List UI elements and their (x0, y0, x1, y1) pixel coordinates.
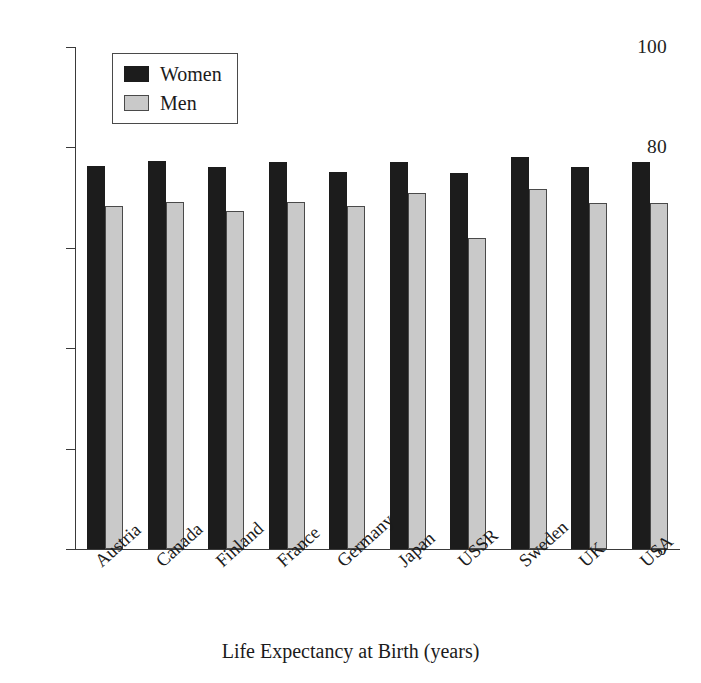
y-tick-80 (66, 147, 75, 148)
legend-label-men: Men (160, 93, 197, 113)
bar-men-finland (226, 211, 244, 549)
chart-legend: Women Men (112, 53, 238, 124)
bar-group-germany (329, 47, 365, 549)
bar-men-sweden (529, 189, 547, 549)
bar-women-japan (390, 162, 408, 549)
y-tick-0 (66, 549, 75, 550)
bar-women-ussr (450, 173, 468, 550)
bar-women-austria (87, 166, 105, 549)
bar-men-uk (589, 203, 607, 549)
bar-men-austria (105, 206, 123, 549)
y-tick-20 (66, 449, 75, 450)
bar-women-usa (632, 162, 650, 549)
x-axis-title: Life Expectancy at Birth (years) (0, 640, 701, 663)
bar-women-germany (329, 172, 347, 550)
y-tick-40 (66, 348, 75, 349)
legend-item-men: Men (124, 90, 197, 116)
bar-group-france (269, 47, 305, 549)
bar-men-france (287, 202, 305, 549)
bar-men-usa (650, 203, 668, 549)
bar-men-ussr (468, 238, 486, 549)
bar-group-uk (571, 47, 607, 549)
y-tick-60 (66, 248, 75, 249)
men-swatch-icon (124, 95, 149, 111)
bar-women-sweden (511, 157, 529, 549)
women-swatch-icon (124, 66, 149, 82)
bar-men-canada (166, 202, 184, 549)
bar-chart: 020406080100 AustriaCanadaFinlandFranceG… (0, 0, 701, 683)
bar-women-finland (208, 167, 226, 549)
bar-women-canada (148, 161, 166, 549)
legend-label-women: Women (160, 64, 222, 84)
bar-group-japan (390, 47, 426, 549)
bar-women-uk (571, 167, 589, 549)
bar-group-usa (632, 47, 668, 549)
bar-men-japan (408, 193, 426, 549)
bar-men-germany (347, 206, 365, 549)
bar-group-ussr (450, 47, 486, 549)
y-tick-100 (66, 47, 75, 48)
legend-item-women: Women (124, 61, 222, 87)
bar-women-france (269, 162, 287, 549)
bar-group-sweden (511, 47, 547, 549)
